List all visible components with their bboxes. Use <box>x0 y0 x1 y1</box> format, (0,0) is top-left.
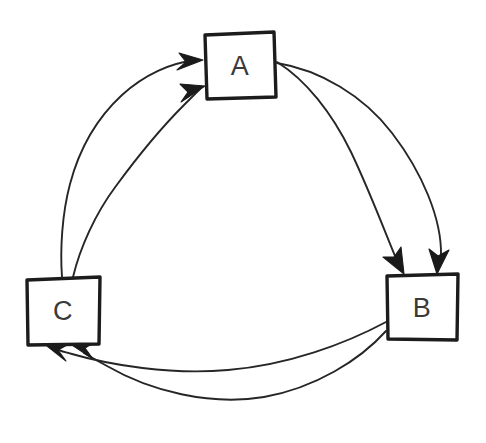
edge-c-to-a-inner-path <box>73 89 200 277</box>
edge-b-to-c-inner-path <box>58 322 386 371</box>
arrowhead-c-to-a-outer <box>177 53 203 70</box>
node-b-label: B <box>413 293 432 323</box>
edge-a-to-b-outer <box>277 63 449 274</box>
node-a-label: A <box>231 51 250 81</box>
edge-c-to-a-inner <box>73 84 205 277</box>
node-c-label: C <box>53 296 73 326</box>
arrowhead-c-to-a-inner <box>180 84 205 102</box>
diagram-canvas: A B C <box>0 0 486 443</box>
node-b[interactable]: B <box>387 274 458 340</box>
edge-a-to-b-inner-path <box>277 62 395 256</box>
arrowhead-a-to-b-outer <box>429 249 449 274</box>
edge-c-to-a-outer-path <box>61 61 191 277</box>
edge-a-to-b-outer-path <box>277 63 441 256</box>
edge-a-to-b-inner <box>277 62 404 274</box>
node-a[interactable]: A <box>205 32 276 99</box>
node-c[interactable]: C <box>27 277 100 345</box>
diagram-svg: A B C <box>0 0 486 443</box>
